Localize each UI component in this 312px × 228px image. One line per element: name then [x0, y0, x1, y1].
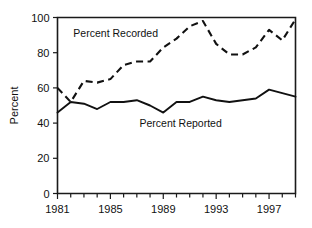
y-tick-label: 20: [37, 152, 49, 164]
x-tick-label: 1985: [98, 203, 122, 215]
y-tick-label: 0: [43, 188, 49, 200]
chart-figure: 020406080100 19811985198919931997 Percen…: [0, 0, 312, 228]
x-tick-label: 1989: [151, 203, 175, 215]
series-label: Percent Recorded: [73, 27, 158, 39]
y-tick-label: 40: [37, 117, 49, 129]
y-tick-label: 100: [31, 12, 49, 24]
line-chart: 020406080100 19811985198919931997 Percen…: [0, 0, 312, 228]
y-tick-label: 60: [37, 82, 49, 94]
series-label: Percent Reported: [139, 117, 221, 129]
y-axis-title: Percent: [8, 87, 20, 125]
x-tick-label: 1981: [45, 203, 69, 215]
y-tick-label: 80: [37, 47, 49, 59]
x-tick-label: 1993: [204, 203, 228, 215]
x-tick-label: 1997: [257, 203, 281, 215]
